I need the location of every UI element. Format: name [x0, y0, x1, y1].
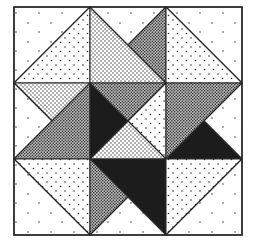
- block-middle-left: [14, 83, 90, 159]
- quilt-block-diagram: [0, 0, 256, 246]
- block-bottom-left: [14, 159, 90, 235]
- block-top-left: [14, 7, 90, 83]
- block-center: [90, 83, 166, 159]
- block-middle-right: [166, 83, 242, 159]
- block-top-center: [90, 7, 166, 83]
- block-top-right: [166, 7, 242, 83]
- block-bottom-center: [90, 159, 166, 235]
- quilt-pieces: [14, 7, 242, 235]
- block-bottom-right: [166, 159, 242, 235]
